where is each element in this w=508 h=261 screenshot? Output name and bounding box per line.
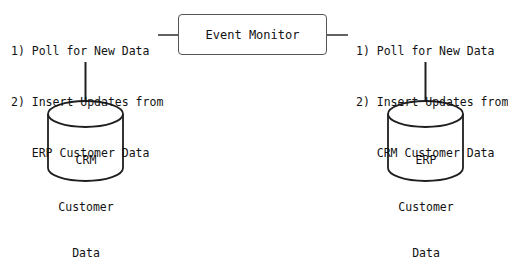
left-step-2: 2) Insert Updates from	[11, 94, 163, 111]
right-step-1: 1) Poll for New Data	[356, 43, 508, 60]
crm-label-line-2: Customer	[48, 200, 124, 216]
event-monitor-node[interactable]: Event Monitor	[178, 14, 327, 55]
left-step-1: 1) Poll for New Data	[11, 43, 163, 60]
crm-label-line-3: Data	[48, 246, 124, 261]
erp-datastore-label: ERP Customer Data	[388, 122, 464, 261]
event-monitor-label: Event Monitor	[206, 28, 300, 42]
crm-label-line-1: CRM	[48, 153, 124, 169]
erp-label-line-3: Data	[388, 246, 464, 261]
crm-datastore-label: CRM Customer Data	[48, 122, 124, 261]
erp-label-line-1: ERP	[388, 153, 464, 169]
erp-label-line-2: Customer	[388, 200, 464, 216]
right-step-2: 2) Insert Updates from	[356, 94, 508, 111]
